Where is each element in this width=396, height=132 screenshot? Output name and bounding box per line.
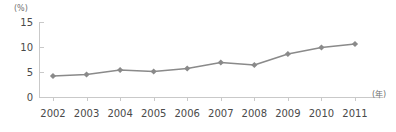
x-tick-mark xyxy=(321,97,322,101)
data-point-marker xyxy=(117,67,123,73)
x-tick-mark xyxy=(221,97,222,101)
x-tick-mark xyxy=(53,97,54,101)
data-point-marker xyxy=(285,51,291,57)
x-tick-label: 2006 xyxy=(174,108,199,119)
data-point-marker xyxy=(251,62,257,68)
x-tick-mark xyxy=(355,97,356,101)
data-point-marker xyxy=(184,65,190,71)
y-axis-unit-label: (%) xyxy=(14,4,28,13)
data-point-marker xyxy=(352,41,358,47)
data-point-marker xyxy=(218,59,224,65)
data-point-marker xyxy=(83,71,89,77)
x-tick-mark xyxy=(87,97,88,101)
x-tick-label: 2005 xyxy=(141,108,166,119)
y-tick-label: 5 xyxy=(27,67,33,78)
x-tick-mark xyxy=(187,97,188,101)
data-point-marker xyxy=(151,68,157,74)
y-tick-mark xyxy=(40,97,44,98)
x-tick-label: 2009 xyxy=(275,108,300,119)
x-tick-label: 2003 xyxy=(74,108,99,119)
x-tick-label: 2010 xyxy=(309,108,334,119)
data-series xyxy=(39,22,383,97)
x-tick-mark xyxy=(254,97,255,101)
x-tick-mark xyxy=(120,97,121,101)
x-tick-mark xyxy=(288,97,289,101)
x-tick-mark xyxy=(154,97,155,101)
x-tick-label: 2004 xyxy=(107,108,132,119)
data-point-marker xyxy=(50,73,56,79)
y-tick-label: 0 xyxy=(27,92,33,103)
x-axis-unit-label: (年) xyxy=(372,88,386,99)
line-chart: (%) 051015 20022003200420052006200720082… xyxy=(0,0,396,132)
y-tick-label: 10 xyxy=(20,42,33,53)
y-tick-label: 15 xyxy=(20,17,33,28)
data-point-marker xyxy=(318,44,324,50)
plot-area: 051015 200220032004200520062007200820092… xyxy=(39,22,383,97)
x-tick-label: 2002 xyxy=(40,108,65,119)
x-tick-label: 2008 xyxy=(242,108,267,119)
x-tick-label: 2007 xyxy=(208,108,233,119)
series-line xyxy=(53,44,355,76)
x-tick-label: 2011 xyxy=(342,108,367,119)
x-axis-line xyxy=(39,97,383,98)
